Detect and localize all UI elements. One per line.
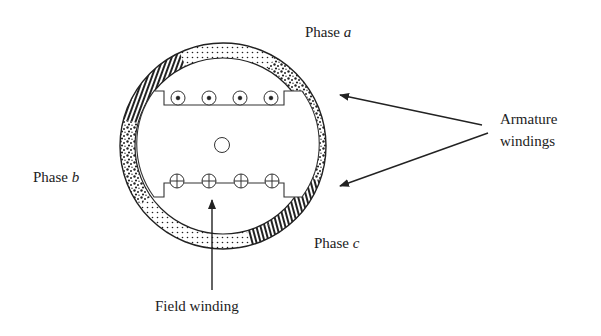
rotor xyxy=(137,91,320,197)
arrow-armature-lower xyxy=(340,133,488,186)
generator-diagram xyxy=(0,0,601,336)
shaft-icon xyxy=(215,138,230,153)
label-field-winding: Field winding xyxy=(155,298,239,315)
label-phase-a: Phase a xyxy=(305,24,351,41)
arrow-armature-upper xyxy=(340,95,482,125)
label-armature-windings: Armature windings xyxy=(500,108,557,152)
label-phase-c: Phase c xyxy=(314,235,359,252)
label-phase-b: Phase b xyxy=(33,169,79,186)
